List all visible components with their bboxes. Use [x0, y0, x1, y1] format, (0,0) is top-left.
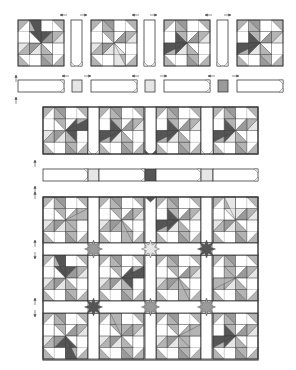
pressing-arrow-icon	[34, 240, 37, 247]
top-block-1	[18, 20, 64, 66]
star-cornerstone	[142, 298, 160, 316]
sashing-piece	[43, 169, 88, 181]
pressing-arrow-icon	[15, 75, 18, 82]
sashing-piece	[164, 80, 210, 92]
star-cornerstone	[198, 240, 216, 258]
cornerstone	[72, 80, 82, 92]
pressing-arrow-icon	[60, 14, 67, 17]
quilt-vertical-sashing	[88, 197, 99, 243]
cornerstone	[145, 169, 156, 181]
pressing-arrow-icon	[34, 298, 37, 305]
quilt-block-r3c4	[213, 313, 258, 359]
top-block-3	[164, 20, 210, 66]
top-sashing-strip	[18, 80, 283, 92]
pressing-arrow-icon	[205, 14, 212, 17]
quilt-block-r1c2	[99, 197, 144, 243]
sashing-piece	[213, 169, 258, 181]
middle-sashing-1	[88, 107, 99, 154]
pressing-arrow-icon	[34, 160, 37, 167]
pressing-arrow-icon	[150, 14, 157, 17]
quilt-block-r1c4	[213, 197, 258, 243]
pressing-arrow-icon	[80, 14, 87, 17]
top-sashing-2	[144, 20, 155, 66]
star-cornerstone	[85, 298, 103, 316]
cornerstone	[88, 169, 99, 181]
sashing-piece	[91, 80, 137, 92]
star-cornerstone	[198, 298, 216, 316]
middle-sashing-2	[145, 107, 156, 154]
middle-sashing-strip	[43, 169, 258, 181]
quilt-block-r2c3	[156, 255, 201, 301]
quilt-block-r1c3	[156, 197, 201, 243]
cornerstone	[145, 80, 155, 92]
quilt-block-r3c2	[99, 313, 144, 359]
top-block-2	[91, 20, 137, 66]
middle-block-1	[43, 107, 88, 154]
top-block-4	[237, 20, 283, 66]
pressing-arrow-icon	[132, 75, 139, 78]
middle-block-4	[213, 107, 258, 154]
quilt-assembly-diagram: Quilt assembly diagram	[0, 0, 296, 370]
quilt-vertical-sashing	[201, 197, 212, 243]
sashing-piece	[18, 80, 64, 92]
sashing-piece	[237, 80, 283, 92]
cornerstone	[201, 169, 213, 181]
quilt-block-r3c1	[43, 313, 88, 359]
quilt-vertical-sashing	[145, 197, 156, 243]
quilt-vertical-sashing	[145, 255, 156, 301]
pressing-arrow-icon	[232, 75, 239, 78]
pressing-arrow-icon	[34, 310, 37, 317]
middle-block-3	[156, 107, 201, 154]
pressing-arrow-icon	[62, 75, 69, 78]
pressing-arrow-icon	[132, 14, 139, 17]
quilt-block-r1c1	[43, 197, 88, 243]
sashing-piece	[99, 169, 145, 181]
quilt-vertical-sashing	[145, 313, 156, 359]
top-sashing-3	[217, 20, 228, 66]
diagram-canvas	[0, 0, 296, 370]
quilt-block-r3c3	[156, 313, 201, 359]
quilt-block-r2c1	[43, 255, 88, 301]
star-cornerstone	[85, 240, 103, 258]
cornerstone	[218, 80, 228, 92]
quilt-block-r2c4	[213, 255, 258, 301]
middle-sashing-3	[201, 107, 213, 154]
sashing-piece	[156, 169, 201, 181]
pressing-arrow-icon	[34, 252, 37, 259]
pressing-arrow-icon	[160, 75, 167, 78]
middle-block-2	[99, 107, 144, 154]
star-cornerstone	[142, 240, 160, 258]
pressing-arrow-icon	[224, 14, 231, 17]
pressing-arrow-icon	[208, 75, 215, 78]
quilt-vertical-sashing	[88, 313, 99, 359]
quilt-vertical-sashing	[201, 255, 212, 301]
top-sashing-1	[71, 20, 82, 66]
quilt-vertical-sashing	[88, 255, 99, 301]
pressing-arrow-icon	[84, 75, 91, 78]
pressing-arrow-icon	[34, 192, 37, 199]
pressing-arrow-icon	[15, 97, 18, 104]
quilt-vertical-sashing	[201, 313, 212, 359]
quilt-block-r2c2	[99, 255, 144, 301]
